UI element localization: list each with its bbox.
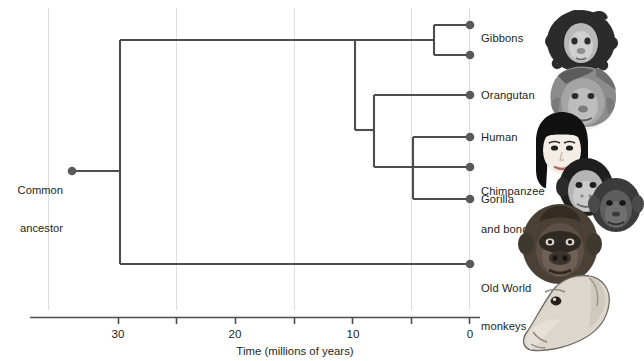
tip-dot-orangutan [466, 91, 475, 100]
branches [72, 25, 470, 264]
old-world-monkey-illustration [519, 270, 613, 358]
tip-label-human: Human [481, 131, 518, 144]
common-ancestor-label-line2: ancestor [0, 222, 63, 235]
time-axis [30, 318, 480, 325]
tip-dot-old-world-monkeys [466, 260, 475, 269]
tip-dot-gibbon-b [466, 51, 475, 60]
axis-tick-label-0: 0 [450, 327, 490, 340]
tip-label-orangutan: Orangutan [481, 89, 535, 102]
common-ancestor-label: Common ancestor [0, 159, 63, 260]
tip-label-gibbons: Gibbons [481, 32, 523, 45]
common-ancestor-label-line1: Common [0, 184, 63, 197]
tip-label-gorilla: Gorilla [481, 193, 514, 206]
tip-dot-gorilla [466, 195, 475, 204]
tip-dot-chimpanzee [466, 163, 475, 172]
axis-tick-label-30: 30 [98, 327, 138, 340]
node-dot-common-ancestor [68, 167, 77, 176]
tip-dot-human [466, 133, 475, 142]
tip-dot-gibbon-a [466, 21, 475, 30]
axis-tick-label-20: 20 [215, 327, 255, 340]
axis-title: Time (millions of years) [175, 345, 415, 357]
axis-tick-label-10: 10 [333, 327, 373, 340]
